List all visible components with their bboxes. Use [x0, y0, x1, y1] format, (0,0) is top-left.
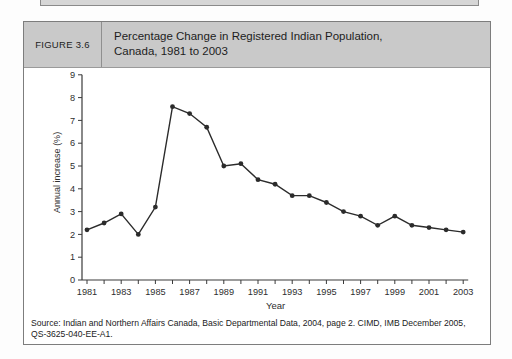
- data-line: [87, 107, 463, 235]
- y-tick-label: 4: [70, 184, 75, 194]
- data-point: [170, 104, 175, 109]
- x-tick-label: 1987: [179, 287, 199, 297]
- data-point: [324, 200, 329, 205]
- data-point: [187, 111, 192, 116]
- x-tick-label: 1993: [282, 287, 302, 297]
- figure-header: FIGURE 3.6 Percentage Change in Register…: [24, 22, 490, 68]
- previous-figure-bottom-edge: [40, 0, 479, 6]
- data-point: [221, 164, 226, 169]
- source-note: Source: Indian and Northern Affairs Cana…: [24, 317, 490, 340]
- figure-title-line2: Canada, 1981 to 2003: [114, 44, 383, 59]
- figure-title: Percentage Change in Registered Indian P…: [102, 22, 393, 67]
- y-tick-label: 5: [70, 161, 75, 171]
- x-tick-label: 2001: [419, 287, 439, 297]
- data-point: [444, 227, 449, 232]
- figure-title-line1: Percentage Change in Registered Indian P…: [114, 29, 383, 44]
- data-point: [392, 214, 397, 219]
- data-point: [358, 214, 363, 219]
- y-tick-label: 0: [70, 275, 75, 285]
- y-tick-label: 8: [70, 93, 75, 103]
- data-point: [273, 182, 278, 187]
- data-point: [341, 209, 346, 214]
- data-point: [239, 161, 244, 166]
- x-tick-label: 1981: [77, 287, 97, 297]
- data-point: [307, 193, 312, 198]
- y-tick-label: 2: [70, 230, 75, 240]
- figure-number-label: FIGURE 3.6: [24, 22, 102, 67]
- data-point: [290, 193, 295, 198]
- page: { "figure": { "label": "FIGURE 3.6", "ti…: [0, 0, 512, 359]
- y-axis-title: Annual increase (%): [52, 132, 62, 213]
- chart-area: 0123456789198119831985198719891991199319…: [24, 68, 490, 317]
- data-point: [375, 223, 380, 228]
- x-tick-label: 1989: [214, 287, 234, 297]
- x-tick-label: 1985: [145, 287, 165, 297]
- x-tick-label: 1997: [350, 287, 370, 297]
- x-tick-label: 2003: [453, 287, 473, 297]
- x-axis-title: Year: [266, 300, 285, 311]
- x-tick-label: 1999: [385, 287, 405, 297]
- data-point: [427, 225, 432, 230]
- y-tick-label: 3: [70, 207, 75, 217]
- data-point: [85, 227, 90, 232]
- data-point: [153, 205, 158, 210]
- y-tick-label: 7: [70, 116, 75, 126]
- y-tick-label: 1: [70, 252, 75, 262]
- x-tick-label: 1991: [248, 287, 268, 297]
- data-point: [136, 232, 141, 237]
- data-point: [119, 211, 124, 216]
- data-point: [410, 223, 415, 228]
- figure-box: FIGURE 3.6 Percentage Change in Register…: [23, 21, 491, 345]
- data-point: [461, 230, 466, 235]
- y-tick-label: 6: [70, 138, 75, 148]
- x-tick-label: 1983: [111, 287, 131, 297]
- y-tick-label: 9: [70, 70, 75, 80]
- chart-svg: 0123456789198119831985198719891991199319…: [24, 68, 490, 317]
- data-point: [204, 125, 209, 130]
- data-point: [102, 221, 107, 226]
- x-tick-label: 1995: [316, 287, 336, 297]
- data-point: [256, 177, 261, 182]
